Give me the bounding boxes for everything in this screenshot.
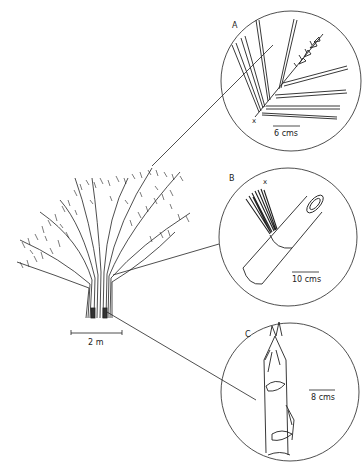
panel-c-scale-label: 8 cms (311, 394, 335, 402)
panel-b-marker: x (263, 178, 267, 186)
panel-a-marker: x (252, 117, 256, 125)
panel-a-label: A (232, 22, 237, 30)
panel-c-label: C (245, 331, 251, 339)
leader-line-a (152, 45, 273, 166)
leader-line-c (107, 312, 256, 400)
bamboo-clump-drawing (17, 168, 190, 318)
bamboo-foliage (20, 170, 189, 268)
panel-b-circle (219, 168, 357, 306)
panel-c-shoot-drawing (264, 322, 294, 455)
panel-b-label: B (229, 175, 235, 183)
panel-b-scale-label: 10 cms (292, 276, 321, 284)
panel-a-scale-label: 6 cms (274, 130, 298, 138)
panel-b-culm-drawing (243, 189, 326, 284)
illustration-canvas: x x (0, 0, 362, 476)
main-scale-label: 2 m (88, 339, 103, 347)
